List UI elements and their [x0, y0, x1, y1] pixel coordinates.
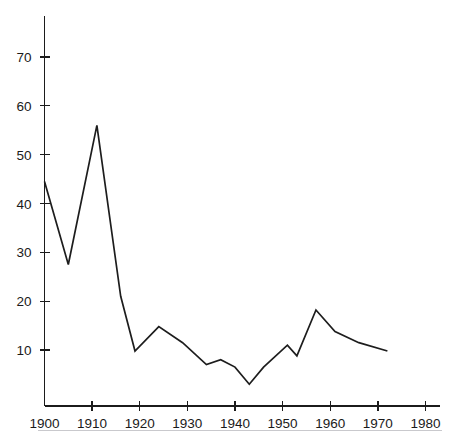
x-tick-label: 1960 [315, 416, 345, 431]
y-tick-label: 50 [16, 148, 31, 163]
x-tick-label: 1900 [29, 416, 59, 431]
x-tick-label: 1980 [410, 416, 440, 431]
y-tick-label: 30 [16, 245, 31, 260]
x-tick-label: 1950 [268, 416, 298, 431]
data-series-line [45, 125, 388, 384]
footer-divider-rule [38, 430, 442, 431]
line-chart-plot: 10203040506070 1900191019201930194019501… [0, 0, 459, 442]
x-tick-label: 1940 [220, 416, 250, 431]
chart-figure: 10203040506070 1900191019201930194019501… [0, 0, 459, 442]
y-tick-label: 10 [16, 343, 31, 358]
x-tick-label: 1930 [172, 416, 202, 431]
y-tick-label: 40 [16, 197, 31, 212]
y-tick-label: 20 [16, 294, 31, 309]
y-tick-label: 70 [16, 50, 31, 65]
y-tick-label: 60 [16, 99, 31, 114]
x-tick-label: 1920 [125, 416, 155, 431]
x-tick-label: 1970 [363, 416, 393, 431]
x-tick-label: 1910 [77, 416, 107, 431]
